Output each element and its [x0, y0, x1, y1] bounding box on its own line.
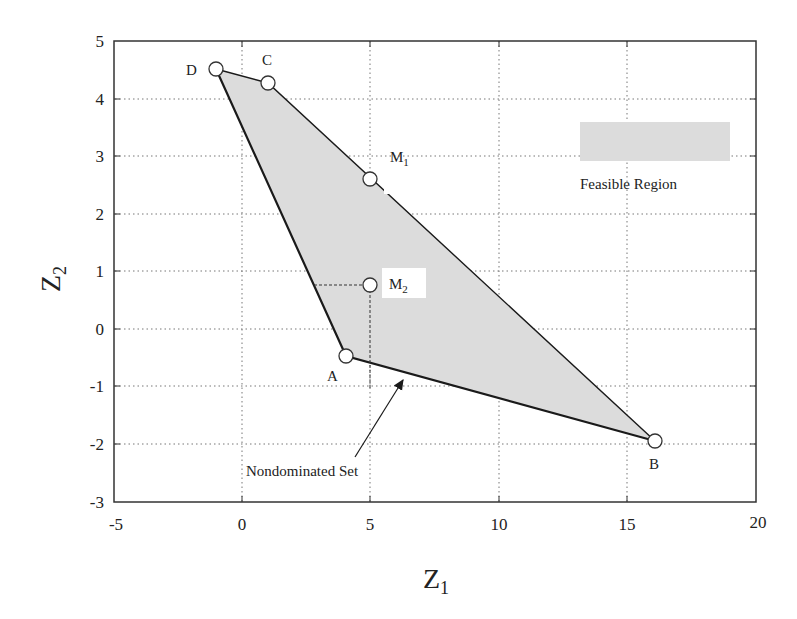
point-b-label: B: [649, 456, 659, 472]
point-b-marker: [648, 434, 662, 448]
y-tick: -1: [90, 377, 104, 396]
x-axis-label: Z1: [423, 563, 449, 598]
y-tick: 5: [96, 32, 105, 51]
chart: 5 4 3 2 1 0 -1 -2 -3 -5 0 5 10 15 20 Z1 …: [0, 0, 797, 619]
point-c-marker: [261, 76, 275, 90]
x-tick: 20: [750, 513, 767, 532]
point-d-label: D: [186, 62, 197, 78]
x-tick: 5: [366, 515, 375, 534]
y-tick: 0: [96, 320, 105, 339]
y-tick-labels: 5 4 3 2 1 0 -1 -2 -3: [90, 32, 105, 512]
nondominated-arrow-icon: [355, 380, 403, 457]
m1-label-bg: [384, 164, 440, 194]
y-tick: 3: [96, 147, 105, 166]
point-c-label: C: [262, 52, 272, 68]
point-m1-marker: [363, 172, 377, 186]
y-tick: 4: [96, 90, 105, 109]
point-m2-marker: [363, 278, 377, 292]
y-tick: 1: [96, 262, 105, 281]
y-tick: -2: [90, 435, 104, 454]
y-tick: -3: [90, 493, 104, 512]
x-tick: 10: [491, 515, 508, 534]
point-d-marker: [209, 62, 223, 76]
y-axis-label: Z2: [35, 266, 70, 292]
x-tick-labels: -5 0 5 10 15 20: [109, 513, 767, 534]
legend-label: Feasible Region: [580, 176, 678, 192]
x-tick: 0: [238, 515, 247, 534]
point-a-label: A: [327, 368, 338, 384]
y-tick: 2: [96, 205, 105, 224]
nondominated-set-label: Nondominated Set: [246, 463, 359, 479]
legend-swatch: [580, 122, 730, 161]
point-a-marker: [339, 349, 353, 363]
x-tick: 15: [619, 515, 636, 534]
x-tick: -5: [109, 515, 123, 534]
